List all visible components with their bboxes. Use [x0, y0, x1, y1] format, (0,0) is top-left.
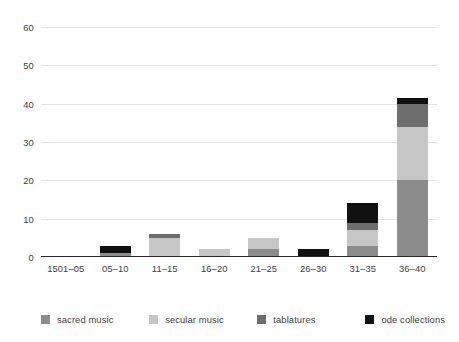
bar-segment-secular-music[interactable]: [347, 230, 378, 245]
legend-item[interactable]: sacred music: [41, 314, 149, 325]
x-axis-tick-label: 11–15: [152, 263, 178, 274]
y-axis-tick-label: 10: [23, 213, 34, 224]
plot-area: 0102030405060 1501–0505–1011–1516–2021–2…: [41, 27, 437, 257]
bar-segment-tablatures[interactable]: [347, 223, 378, 231]
legend-item[interactable]: secular music: [149, 314, 257, 325]
bar-segment-secular-music[interactable]: [149, 238, 180, 257]
bars-layer: 1501–0505–1011–1516–2021–2526–3031–3536–…: [41, 27, 437, 257]
bar-segment-ode-collections[interactable]: [347, 203, 378, 222]
bar-group[interactable]: 1501–05: [41, 27, 91, 257]
bar-segment-secular-music[interactable]: [248, 238, 279, 250]
stacked-bar-chart: 0102030405060 1501–0505–1011–1516–2021–2…: [0, 0, 459, 342]
bar-group[interactable]: 11–15: [140, 27, 190, 257]
legend-label: ode collections: [381, 314, 445, 325]
bar-stack[interactable]: [397, 98, 428, 257]
bar-stack[interactable]: [248, 238, 279, 257]
bar-group[interactable]: 21–25: [239, 27, 289, 257]
legend-swatch-icon: [41, 315, 50, 324]
bar-stack[interactable]: [347, 203, 378, 257]
chart-legend: sacred musicsecular musictablaturesode c…: [41, 314, 445, 325]
y-axis-tick-label: 30: [23, 137, 34, 148]
legend-swatch-icon: [257, 315, 266, 324]
bar-segment-tablatures[interactable]: [397, 104, 428, 127]
legend-swatch-icon: [365, 315, 374, 324]
bar-segment-secular-music[interactable]: [397, 127, 428, 181]
bar-segment-ode-collections[interactable]: [100, 246, 131, 254]
y-axis-tick-label: 0: [29, 252, 34, 263]
x-axis-tick-label: 26–30: [300, 263, 327, 274]
x-axis-tick-label: 05–10: [102, 263, 129, 274]
bar-group[interactable]: 05–10: [91, 27, 141, 257]
x-axis-tick-label: 36–40: [399, 263, 426, 274]
bar-segment-sacred-music[interactable]: [397, 180, 428, 257]
legend-label: sacred music: [57, 314, 113, 325]
legend-item[interactable]: ode collections: [365, 314, 445, 325]
legend-label: tablatures: [273, 314, 315, 325]
x-axis-tick-label: 31–35: [349, 263, 376, 274]
legend-label: secular music: [165, 314, 224, 325]
bar-group[interactable]: 16–20: [190, 27, 240, 257]
bar-group[interactable]: 36–40: [388, 27, 438, 257]
y-axis-tick-label: 20: [23, 175, 34, 186]
bar-group[interactable]: 31–35: [338, 27, 388, 257]
legend-item[interactable]: tablatures: [257, 314, 365, 325]
y-axis-tick-label: 40: [23, 98, 34, 109]
y-axis-tick-label: 60: [23, 22, 34, 33]
x-axis-tick-label: 21–25: [250, 263, 277, 274]
x-axis-tick-label: 16–20: [201, 263, 228, 274]
y-axis-tick-label: 50: [23, 60, 34, 71]
bar-stack[interactable]: [149, 234, 180, 257]
x-axis-tick-label: 1501–05: [47, 263, 84, 274]
x-axis-line: [41, 256, 437, 257]
legend-swatch-icon: [149, 315, 158, 324]
bar-group[interactable]: 26–30: [289, 27, 339, 257]
